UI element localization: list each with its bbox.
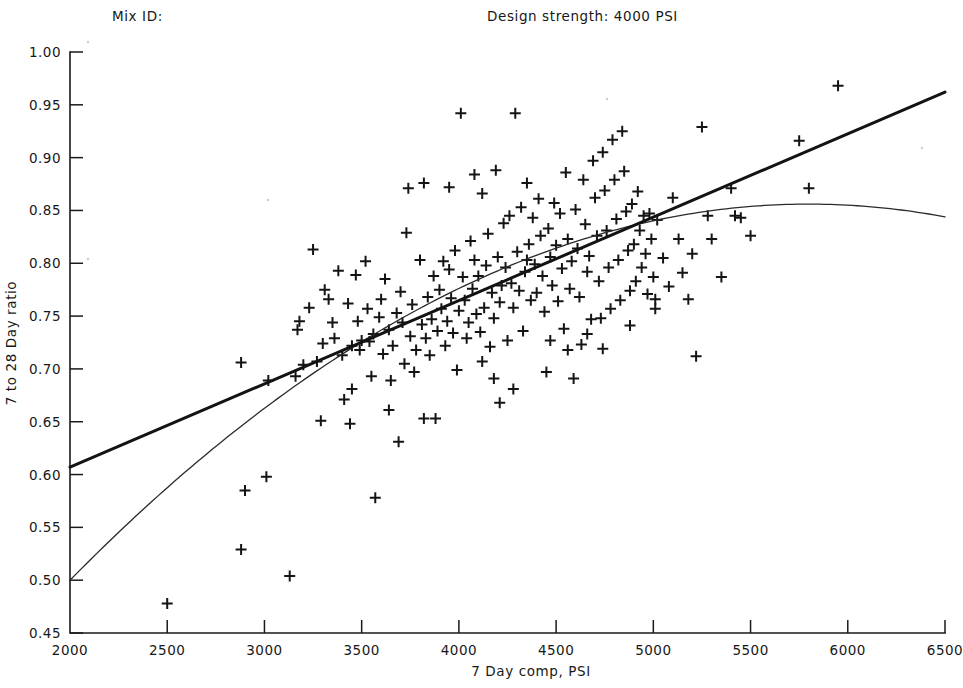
data-point-marker: [319, 284, 330, 295]
data-point-marker: [673, 233, 684, 244]
data-point-marker: [621, 206, 632, 217]
data-point-marker: [294, 316, 305, 327]
data-point-marker: [465, 236, 476, 247]
data-point-marker: [590, 192, 601, 203]
data-point-marker: [350, 269, 361, 280]
data-point-marker: [613, 255, 624, 266]
data-point-marker: [395, 286, 406, 297]
data-point-marker: [607, 134, 618, 145]
data-point-marker: [568, 373, 579, 384]
x-tick-label: 5000: [635, 642, 671, 658]
data-point-marker: [416, 319, 427, 330]
data-point-marker: [683, 294, 694, 305]
data-point-marker: [481, 260, 492, 271]
x-tick-label: 4500: [538, 642, 574, 658]
data-point-marker: [485, 341, 496, 352]
data-point-marker: [502, 335, 513, 346]
data-point-marker: [415, 255, 426, 266]
y-tick-label: 0.55: [29, 519, 61, 535]
data-point-marker: [537, 270, 548, 281]
x-tick-label: 3000: [246, 642, 282, 658]
data-point-marker: [625, 285, 636, 296]
data-point-marker: [593, 276, 604, 287]
x-tick-label: 6500: [927, 642, 963, 658]
data-point-marker: [261, 471, 272, 482]
data-point-marker: [399, 358, 410, 369]
data-point-marker: [469, 255, 480, 266]
data-point-marker: [380, 274, 391, 285]
data-point-marker: [492, 251, 503, 262]
data-point-marker: [605, 303, 616, 314]
y-tick-label: 0.60: [29, 467, 61, 483]
data-point-marker: [636, 262, 647, 273]
data-point-marker: [632, 186, 643, 197]
data-point-marker: [619, 166, 630, 177]
data-point-marker: [483, 228, 494, 239]
data-point-marker: [504, 210, 515, 221]
data-point-marker: [518, 325, 529, 336]
data-point-marker: [457, 272, 468, 283]
data-point-marker: [424, 350, 435, 361]
data-point-marker: [539, 306, 550, 317]
data-point-marker: [603, 262, 614, 273]
data-point-marker: [440, 340, 451, 351]
linear-fit-line: [70, 92, 945, 467]
data-point-marker: [545, 335, 556, 346]
data-point-marker: [422, 292, 433, 303]
data-point-marker: [323, 294, 334, 305]
data-point-marker: [706, 233, 717, 244]
data-point-marker: [617, 126, 628, 137]
data-point-marker: [615, 295, 626, 306]
data-point-marker: [523, 239, 534, 250]
data-point-marker: [304, 302, 315, 313]
data-point-marker: [292, 324, 303, 335]
data-point-marker: [547, 280, 558, 291]
y-tick-label: 0.75: [29, 308, 61, 324]
paper-speck-icon: [921, 147, 923, 149]
data-point-marker: [630, 276, 641, 287]
data-point-marker: [494, 297, 505, 308]
data-point-marker: [162, 598, 173, 609]
y-tick-label: 0.85: [29, 202, 61, 218]
y-tick-label: 0.45: [29, 625, 61, 641]
x-tick-label: 4000: [441, 642, 477, 658]
data-point-marker: [582, 329, 593, 340]
data-point-marker: [580, 219, 591, 230]
paper-speck-icon: [267, 199, 269, 201]
data-point-marker: [498, 218, 509, 229]
data-point-marker: [411, 344, 422, 355]
data-point-marker: [625, 320, 636, 331]
data-point-marker: [555, 208, 566, 219]
data-point-marker: [362, 303, 373, 314]
data-point-marker: [236, 544, 247, 555]
data-point-marker: [687, 248, 698, 259]
data-point-marker: [541, 367, 552, 378]
data-point-marker: [469, 169, 480, 180]
data-point-marker: [434, 284, 445, 295]
data-point-marker: [479, 302, 490, 313]
data-point-marker: [393, 436, 404, 447]
data-point-marker: [236, 357, 247, 368]
x-tick-label: 3500: [343, 642, 379, 658]
data-point-marker: [284, 570, 295, 581]
data-point-marker: [558, 323, 569, 334]
data-point-marker: [576, 339, 587, 350]
data-point-marker: [418, 177, 429, 188]
data-point-marker: [442, 316, 453, 327]
data-point-marker: [667, 192, 678, 203]
chart-figure: Mix ID: Design strength: 4000 PSI 0.450.…: [0, 0, 963, 688]
x-tick-label: 2500: [149, 642, 185, 658]
data-point-marker: [514, 285, 525, 296]
design-strength-label: Design strength: 4000 PSI: [487, 8, 678, 24]
data-point-marker: [650, 303, 661, 314]
data-point-marker: [508, 383, 519, 394]
data-point-marker: [543, 223, 554, 234]
data-point-marker: [599, 185, 610, 196]
data-point-marker: [508, 302, 519, 313]
data-point-marker: [339, 394, 350, 405]
data-point-marker: [516, 202, 527, 213]
data-point-marker: [648, 272, 659, 283]
data-point-marker: [794, 135, 805, 146]
data-point-marker: [634, 225, 645, 236]
data-point-marker: [527, 212, 538, 223]
